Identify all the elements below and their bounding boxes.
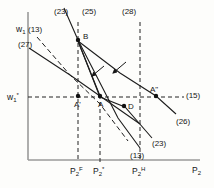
direction-arrow-right — [113, 62, 126, 73]
point-label-a-dprime: A" — [150, 86, 158, 94]
equation-label-13-bottom: (13) — [130, 152, 144, 160]
equation-label-25-top: (25) — [82, 8, 96, 16]
point-marker-b — [76, 38, 80, 42]
point-marker-a-dprime — [154, 94, 158, 98]
x-axis-label: P2 — [192, 166, 201, 176]
x-tick-label-p2f: P2F — [70, 166, 83, 177]
x-tick-label-p2h: P2H — [132, 166, 145, 177]
curve-27-flat — [29, 48, 140, 124]
y-tick-label-w1star: w1* — [7, 92, 19, 103]
point-label-a: A — [98, 101, 103, 109]
equation-label-23-top: (23) — [54, 8, 68, 16]
figure-container: w1 w1* P2 P2F P2* P2H (23) (25) (28) (13… — [0, 0, 214, 188]
point-label-b: B — [83, 33, 88, 41]
point-marker-a — [98, 94, 102, 98]
equation-label-26-right: (26) — [176, 118, 190, 126]
equation-label-28-top: (28) — [122, 8, 136, 16]
equation-label-15-right: (15) — [186, 92, 200, 100]
equation-label-27-left: (27) — [18, 41, 32, 49]
point-marker-a-prime — [76, 94, 80, 98]
y-axis-label: w1 — [16, 25, 25, 35]
equation-label-13-upper: (13) — [28, 26, 42, 34]
point-marker-d — [122, 104, 126, 108]
point-label-d: D — [128, 103, 134, 111]
x-tick-label-p2star: P2* — [93, 166, 104, 177]
equation-label-23-bottom: (23) — [152, 140, 166, 148]
point-label-a-prime: A' — [74, 101, 81, 109]
